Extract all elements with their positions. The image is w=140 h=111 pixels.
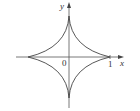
x-tick-label: 1 bbox=[108, 59, 113, 69]
y-axis-label: y bbox=[59, 1, 64, 11]
origin-label: 0 bbox=[62, 58, 67, 68]
y-axis-arrow-icon bbox=[67, 2, 71, 8]
x-axis-label: x bbox=[119, 58, 124, 68]
astroid-diagram: y 0 1 x bbox=[0, 0, 140, 111]
